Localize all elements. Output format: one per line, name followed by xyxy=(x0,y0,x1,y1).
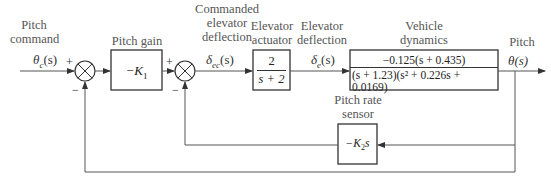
vehicle-label-line1: Vehicle xyxy=(394,19,454,33)
vehicle-dynamics-label: Vehicle dynamics xyxy=(394,19,454,47)
vehicle-denominator: (s + 1.23)(s² + 0.226s + 0.0169) xyxy=(350,67,498,93)
summing-junction-1 xyxy=(75,61,95,81)
vehicle-dynamics-transfer-function: −0.125(s + 0.435) (s + 1.23)(s² + 0.226s… xyxy=(350,54,498,93)
gain-symbol: −K xyxy=(126,63,143,78)
pitch-command-label: Pitch command xyxy=(10,18,58,46)
arg-s: (s) xyxy=(43,52,57,67)
deflection-label-line2: deflection xyxy=(296,33,348,47)
vehicle-numerator: −0.125(s + 0.435) xyxy=(381,54,468,67)
summing-junction-2 xyxy=(175,61,195,81)
pitch-rate-sensor-value: −K2s xyxy=(338,137,377,152)
sensor-label-line1: Pitch rate xyxy=(326,93,390,107)
arg-s: (s) xyxy=(321,52,335,67)
deflection-label-line1: Elevator xyxy=(296,19,348,33)
pitch-output-label: Pitch xyxy=(504,35,540,49)
elevator-actuator-label: Elevator actuator xyxy=(247,19,297,47)
pitch-gain-value: −K1 xyxy=(111,63,162,81)
pitch-rate-sensor-label: Pitch rate sensor xyxy=(326,93,390,121)
pitch-command-label-line1: Pitch xyxy=(10,18,58,32)
pitch-command-label-line2: command xyxy=(10,32,58,46)
sensor-s: s xyxy=(365,137,369,149)
actuator-numerator: 2 xyxy=(266,54,276,70)
sensor-gain-symbol: −K xyxy=(346,137,361,149)
outer-feedback-line xyxy=(85,82,515,172)
actuator-denominator: s + 2 xyxy=(257,70,287,87)
deflection-signal-label: δe(s) xyxy=(311,52,335,70)
subscript-ec: ec xyxy=(212,60,220,70)
sum2-minus-sign: − xyxy=(172,83,179,98)
input-signal-label: θc(s) xyxy=(33,52,57,70)
elevator-deflection-label: Elevator deflection xyxy=(296,19,348,47)
commanded-label-line1: Commanded xyxy=(187,2,267,16)
commanded-deflection-signal-label: δec(s) xyxy=(206,52,234,70)
sum1-plus-sign: + xyxy=(66,55,73,70)
actuator-label-line1: Elevator xyxy=(247,19,297,33)
sum2-plus-sign: + xyxy=(166,55,173,70)
sensor-to-sum2-line xyxy=(185,82,338,145)
actuator-label-line2: actuator xyxy=(247,33,297,47)
sensor-label-line2: sensor xyxy=(326,107,390,121)
arg-s: (s) xyxy=(220,52,234,67)
vehicle-label-line2: dynamics xyxy=(394,33,454,47)
sum1-minus-sign: − xyxy=(72,83,79,98)
output-signal-label: θ(s) xyxy=(508,53,528,69)
pitch-gain-label: Pitch gain xyxy=(110,34,164,48)
elevator-actuator-transfer-function: 2 s + 2 xyxy=(253,54,290,87)
gain-subscript: 1 xyxy=(143,71,148,81)
